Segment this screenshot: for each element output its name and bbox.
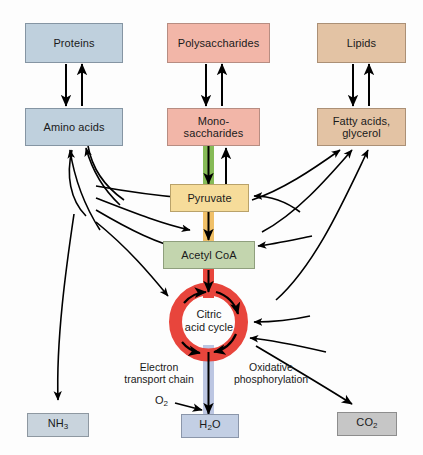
arrow-pyruvate-to-fatty-acids	[252, 150, 340, 200]
node-polysaccharides: Polysaccharides	[167, 23, 270, 63]
node-fatty-acids-label: Fatty acids, glycerol	[333, 115, 390, 140]
carbon-dioxide-label: CO2	[356, 416, 377, 433]
node-monosaccharides: Mono- saccharides	[167, 108, 260, 146]
node-ammonia: NH3	[27, 413, 89, 437]
arrow-cycle-to-fatty-acids	[276, 150, 368, 300]
oxygen-label-text: O	[155, 394, 164, 406]
arrow-into-amino-acids-b	[70, 150, 100, 230]
arrow-fatty-acids-to-acetyl-coa	[258, 236, 312, 246]
pathway-vector-layer	[0, 0, 423, 455]
metabolism-overview-diagram: Proteins Polysaccharides Lipids Amino ac…	[0, 0, 423, 455]
node-amino-acids: Amino acids	[25, 108, 123, 146]
arrow-fatty-acids-to-cycle	[254, 316, 310, 322]
carbon-dioxide-subscript: 2	[373, 421, 378, 430]
node-fatty-acids-label-line2: glycerol	[342, 127, 381, 139]
node-pyruvate: Pyruvate	[170, 184, 249, 212]
cycle-label-line2: acid cycle	[185, 321, 233, 333]
electron-transport-chain-label: Electron transport chain	[118, 361, 200, 385]
node-fatty-acids-label-line1: Fatty acids,	[333, 115, 390, 127]
water-label-tail: O	[212, 418, 221, 430]
oxygen-label: O2	[155, 394, 168, 408]
node-proteins-label: Proteins	[53, 37, 94, 50]
node-water: H2O	[181, 414, 239, 438]
oxygen-subscript: 2	[164, 399, 168, 408]
etc-label-line2: transport chain	[124, 373, 193, 385]
ammonia-label-text: NH	[48, 417, 64, 429]
oxphos-label-line1: Oxidative	[249, 361, 293, 373]
node-carbon-dioxide: CO2	[337, 412, 397, 436]
node-lipids: Lipids	[317, 23, 406, 63]
node-polysaccharides-label: Polysaccharides	[178, 37, 260, 50]
water-label: H2O	[199, 418, 220, 435]
node-monosaccharides-label-line2: saccharides	[184, 127, 244, 139]
arrow-oxygen-to-water	[175, 403, 202, 410]
node-fatty-acids: Fatty acids, glycerol	[317, 108, 406, 146]
node-monosaccharides-label-line1: Mono-	[198, 115, 230, 127]
ammonia-label: NH3	[48, 417, 69, 434]
node-lipids-label: Lipids	[347, 37, 376, 50]
citric-acid-cycle-label: Citric acid cycle	[164, 308, 254, 334]
node-amino-acids-label: Amino acids	[43, 121, 104, 134]
oxidative-phosphorylation-label: Oxidative phosphorylation	[222, 361, 320, 385]
arrow-fatty-acids-to-pyruvate	[254, 196, 300, 212]
etc-label-line1: Electron	[140, 361, 179, 373]
node-proteins: Proteins	[25, 23, 123, 63]
carbon-dioxide-label-text: CO	[356, 416, 373, 428]
node-acetyl-coa: Acetyl CoA	[163, 241, 255, 269]
node-monosaccharides-label: Mono- saccharides	[184, 115, 244, 140]
arrow-amino-acids-to-ammonia	[58, 214, 74, 400]
cycle-label-line1: Citric	[196, 308, 221, 320]
ammonia-subscript: 3	[64, 422, 69, 431]
node-pyruvate-label: Pyruvate	[187, 192, 231, 205]
node-acetyl-coa-label: Acetyl CoA	[181, 249, 236, 262]
curve-amino-acids-down-a	[88, 146, 124, 200]
arrow-amino-acids-to-cycle	[96, 222, 168, 296]
oxphos-label-line2: phosphorylation	[234, 373, 308, 385]
